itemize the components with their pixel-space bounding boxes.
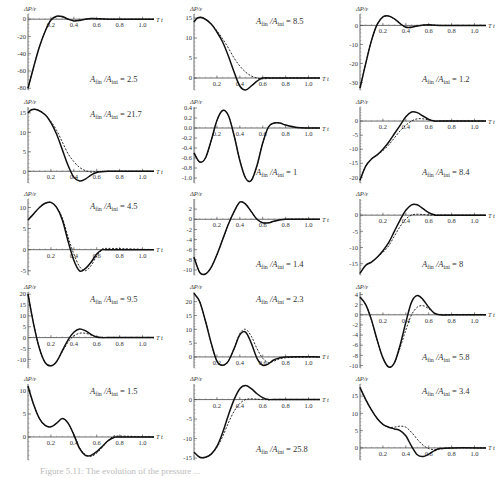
ratio-label: Afin /Aini = 9.5: [89, 294, 138, 305]
y-tick-label: -0.6: [182, 154, 193, 161]
x-tick-label: 1.0: [470, 123, 478, 130]
y-tick-label: 10: [20, 129, 27, 136]
plot-panel: ΔP/ε0-5-10-15-200.20.40.60.81.0T tAfin /…: [336, 95, 500, 187]
x-tick-label: 0.8: [448, 217, 456, 224]
x-tick-label: 0.4: [402, 123, 411, 130]
y-axis-label: ΔP/ε: [189, 5, 203, 12]
y-tick-label: -5: [353, 228, 358, 235]
plot-panel: ΔP/ε0-5-10-150.20.40.60.81.0T tAfin /Ain…: [336, 187, 500, 279]
solid-curve: [28, 202, 154, 271]
y-tick-label: 5: [23, 225, 26, 232]
x-tick-label: 0.2: [47, 252, 55, 259]
x-tick-label: 0.6: [93, 21, 102, 28]
x-tick-label: 0.8: [116, 21, 124, 28]
y-tick-label: -60: [17, 67, 26, 74]
x-tick-label: 0.8: [282, 359, 290, 366]
y-tick-label: 10: [352, 410, 359, 417]
ratio-label: Afin /Aini = 1.4: [255, 259, 304, 270]
ratio-label: Afin /Aini = 25.8: [255, 444, 308, 455]
y-tick-label: 0: [355, 211, 358, 218]
y-tick-label: -0.2: [182, 134, 192, 141]
plot-panel: ΔP/ε0.40.20.0-0.2-0.4-0.6-0.8-1.00.20.40…: [170, 95, 334, 187]
y-tick-label: -6: [353, 341, 359, 348]
plot-panel: ΔP/ε0-20-40-60-800.20.40.60.81.0T tAfin …: [4, 2, 168, 94]
y-axis-label: ΔP/ε: [189, 375, 203, 382]
x-tick-label: 0.2: [379, 450, 387, 457]
y-tick-label: 0: [189, 396, 192, 403]
y-tick-label: -5: [21, 345, 26, 352]
x-tick-label: 0.2: [213, 221, 221, 228]
y-tick-label: -40: [17, 50, 26, 57]
y-tick-label: 5: [189, 339, 192, 346]
y-tick-label: -4: [353, 331, 359, 338]
x-tick-label: 1.0: [304, 130, 312, 137]
solid-curve: [360, 387, 486, 456]
dashed-curve: [360, 387, 486, 449]
x-axis-label: T t: [488, 311, 495, 318]
y-tick-label: 5: [189, 54, 192, 61]
y-axis-label: ΔP/ε: [23, 375, 37, 382]
solid-curve: [194, 293, 320, 365]
y-tick-label: 10: [20, 204, 27, 211]
x-tick-label: 0.6: [425, 123, 434, 130]
x-tick-label: 0.8: [448, 123, 456, 130]
solid-curve: [28, 294, 154, 366]
y-tick-label: 15: [186, 312, 193, 319]
y-tick-label: -8: [187, 256, 192, 263]
ratio-label: Afin /Aini = 8.5: [255, 16, 304, 27]
y-tick-label: 0: [23, 433, 26, 440]
y-tick-label: -10: [349, 244, 358, 251]
y-axis-label: ΔP/ε: [355, 5, 369, 12]
y-tick-label: -8: [353, 352, 358, 359]
y-tick-label: 10: [186, 326, 193, 333]
ratio-label: Afin /Aini = 1.2: [421, 74, 470, 85]
y-tick-label: 10: [20, 387, 27, 394]
y-axis-label: ΔP/ε: [355, 375, 369, 382]
ratio-label: Afin /Aini = 5.8: [421, 352, 470, 363]
y-axis-label: ΔP/ε: [355, 190, 369, 197]
x-tick-label: 0.8: [448, 317, 456, 324]
y-tick-label: 0.0: [184, 124, 192, 131]
x-axis-label: T t: [156, 168, 163, 175]
y-tick-label: -2: [187, 226, 192, 233]
y-tick-label: 5: [23, 323, 26, 330]
x-axis-label: T t: [156, 16, 163, 23]
x-tick-label: 0.6: [425, 27, 434, 34]
y-axis-label: ΔP/ε: [23, 283, 37, 290]
plot-panel: ΔP/ε1050-50.20.40.60.81.0T tAfin /Aini =…: [4, 187, 168, 279]
y-tick-label: -5: [21, 267, 26, 274]
y-tick-label: -4: [187, 236, 193, 243]
x-tick-label: 0.8: [282, 80, 290, 87]
plot-panel: ΔP/ε20-2-4-6-8-100.20.40.60.81.0T tAfin …: [170, 187, 334, 279]
y-tick-label: -15: [183, 454, 192, 461]
y-tick-label: 20: [20, 290, 27, 297]
plot-panel: ΔP/ε1510500.20.40.60.81.0T tAfin /Aini =…: [336, 372, 500, 464]
y-tick-label: -0.8: [182, 164, 192, 171]
x-tick-label: 0.6: [259, 402, 268, 409]
plot-panel: ΔP/ε20151050-5-100.20.40.60.81.0T tAfin …: [4, 280, 168, 372]
x-tick-label: 1.0: [304, 221, 312, 228]
x-axis-label: T t: [322, 353, 329, 360]
x-tick-label: 1.0: [138, 252, 146, 259]
x-tick-label: 1.0: [138, 439, 146, 446]
x-tick-label: 1.0: [138, 21, 146, 28]
x-tick-label: 0.4: [236, 221, 245, 228]
dashed-curve: [28, 202, 154, 271]
y-axis-label: ΔP/ε: [355, 98, 369, 105]
y-axis-label: ΔP/ε: [189, 283, 203, 290]
y-tick-label: 0: [23, 15, 26, 22]
x-axis-label: T t: [156, 433, 163, 440]
plot-panel: ΔP/ε10500.20.40.60.81.0T tAfin /Aini = 1…: [4, 372, 168, 464]
y-tick-label: -30: [349, 79, 358, 86]
x-tick-label: 1.0: [304, 402, 312, 409]
y-tick-label: 10: [20, 312, 27, 319]
x-tick-label: 0.8: [282, 402, 290, 409]
y-tick-label: 0.2: [184, 114, 192, 121]
x-tick-label: 1.0: [138, 173, 146, 180]
y-axis-label: ΔP/ε: [23, 98, 37, 105]
y-tick-label: -10: [183, 435, 192, 442]
y-tick-label: 5: [23, 410, 26, 417]
y-tick-label: 4: [355, 291, 359, 298]
x-tick-label: 0.4: [402, 217, 411, 224]
x-tick-label: 1.0: [470, 27, 478, 34]
